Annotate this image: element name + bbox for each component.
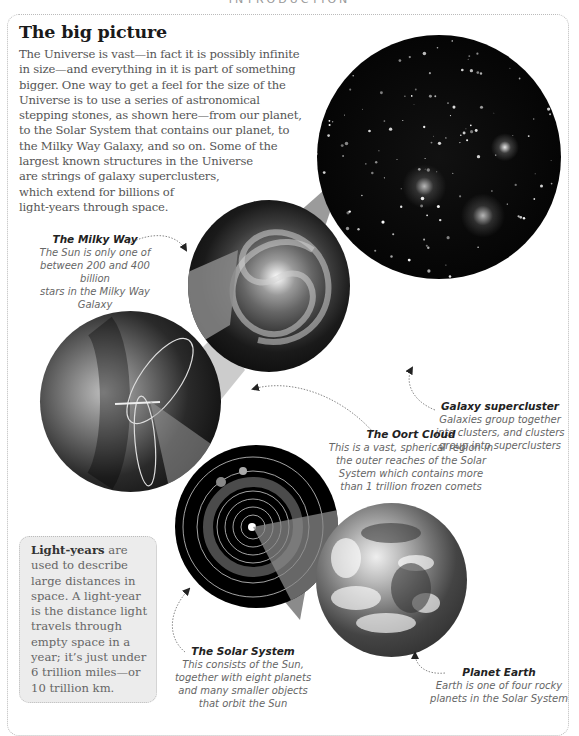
note-line: empty space in a [31,635,147,650]
light-years-note: Light-years are used to describelarge di… [19,536,157,703]
caption-solar-system: The Solar System This consists of the Su… [168,645,318,710]
caption-solar-system-title: The Solar System [168,645,318,658]
caption-line: the outer reaches of the Solar [325,454,497,467]
caption-planet-earth: Planet Earth Earth is one of four rocky … [420,666,578,705]
caption-planet-earth-title: Planet Earth [420,666,578,679]
caption-line: Galaxies group together [425,413,575,426]
arrow-solar-system [172,589,189,652]
note-line: used to describe [31,558,147,573]
note-bold-term: Light-years [31,543,105,557]
caption-line: The Sun is only one of [25,246,165,259]
caption-line: planets in the Solar System [420,692,578,705]
caption-milky-way-title: The Milky Way [25,233,165,246]
note-line: travels through [31,619,147,634]
caption-galaxy-supercluster-title: Galaxy supercluster [425,400,575,413]
caption-line: together with eight planets [168,671,318,684]
caption-line: between 200 and 400 billion [25,259,165,285]
note-line: year; it’s just under [31,650,147,665]
caption-milky-way: The Milky Way The Sun is only one of bet… [25,233,165,311]
note-line: space. A light-year [31,589,147,604]
caption-line: and many smaller objects [168,684,318,697]
light-years-note-text: Light-years are used to describelarge di… [31,543,147,696]
caption-line: Earth is one of four rocky [420,679,578,692]
caption-line: than 1 trillion frozen comets [325,480,497,493]
note-line: large distances in [31,574,147,589]
caption-line: that orbit the Sun [168,697,318,710]
caption-oort-cloud: The Oort Cloud This is a vast, spherical… [325,428,497,493]
caption-oort-cloud-title: The Oort Cloud [325,428,497,441]
caption-line: This consists of the Sun, [168,658,318,671]
arrow-oort-cloud [253,386,373,432]
note-line: 6 trillion miles—or [31,665,147,680]
caption-line: stars in the Milky Way Galaxy [25,285,165,311]
note-line: are [105,543,128,557]
note-line: is the distance light [31,604,147,619]
caption-line: This is a vast, spherical region in [325,441,497,454]
caption-line: System which contains more [325,467,497,480]
note-line: 10 trillion km. [31,681,147,696]
